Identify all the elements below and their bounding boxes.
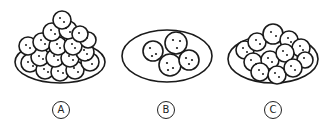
option-b[interactable]: B <box>110 0 220 131</box>
option-label-b: B <box>157 101 175 119</box>
plate-heaped-cookies-icon <box>0 0 120 100</box>
option-a[interactable]: A <box>0 0 120 131</box>
option-c[interactable]: C <box>215 0 332 131</box>
plate-cookies-icon <box>215 0 332 100</box>
plate-few-cookies-icon <box>110 0 220 100</box>
option-label-c: C <box>264 101 282 119</box>
option-label-a: A <box>52 101 70 119</box>
